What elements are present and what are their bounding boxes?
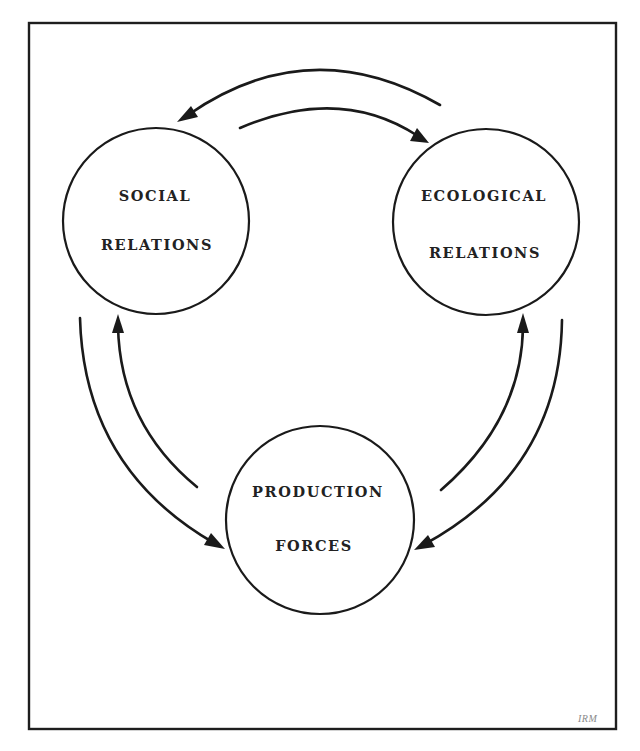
- node-social-relations: SOCIAL RELATIONS: [63, 128, 249, 314]
- arrowhead-icon: [517, 313, 529, 333]
- edge-ecological-to-production: [414, 320, 562, 550]
- arrowhead-icon: [112, 314, 124, 333]
- node-label-line-2: RELATIONS: [101, 236, 213, 253]
- node-label-line-2: RELATIONS: [429, 244, 541, 261]
- node-production-forces: PRODUCTION FORCES: [226, 426, 414, 614]
- node-circle: [63, 128, 249, 314]
- edge-social-to-ecological: [240, 108, 429, 143]
- cycle-diagram: SOCIAL RELATIONS ECOLOGICAL RELATIONS PR…: [0, 0, 640, 751]
- edge-ecological-to-social: [177, 70, 440, 122]
- node-label-line-1: ECOLOGICAL: [421, 187, 547, 204]
- node-label-line-2: FORCES: [275, 537, 353, 554]
- arrowhead-icon: [204, 533, 225, 549]
- node-circle: [393, 129, 579, 315]
- node-label-line-1: PRODUCTION: [252, 483, 384, 500]
- diagram-frame: [29, 23, 616, 729]
- node-label-line-1: SOCIAL: [119, 187, 191, 204]
- arrowhead-icon: [410, 128, 429, 143]
- arrowhead-icon: [177, 106, 198, 122]
- edge-production-to-ecological: [441, 313, 529, 490]
- node-ecological-relations: ECOLOGICAL RELATIONS: [393, 129, 579, 315]
- edge-production-to-social: [112, 314, 197, 487]
- edge-social-to-production: [80, 318, 225, 549]
- arrowhead-icon: [414, 535, 435, 550]
- node-circle: [226, 426, 414, 614]
- credit-mark: IRM: [577, 713, 597, 724]
